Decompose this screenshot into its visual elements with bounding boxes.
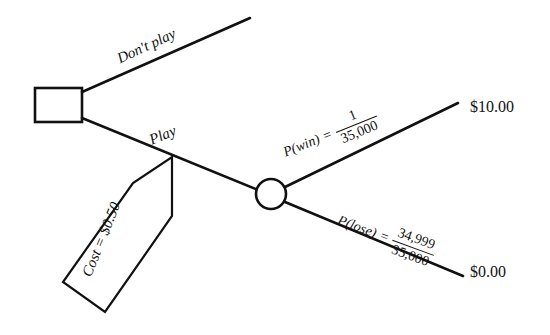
p-lose-equals: =	[377, 229, 391, 245]
decision-node[interactable]	[35, 88, 82, 122]
p-lose-text: P(lose)	[336, 214, 379, 241]
p-win-text: P(win)	[281, 132, 322, 159]
payoff-label-win: $10.00	[470, 99, 514, 115]
p-win-equals: =	[320, 127, 334, 144]
cost-callout-shape	[63, 157, 172, 312]
decision-tree-canvas	[0, 0, 550, 335]
chance-node[interactable]	[256, 179, 286, 209]
payoff-label-lose: $0.00	[470, 264, 506, 280]
